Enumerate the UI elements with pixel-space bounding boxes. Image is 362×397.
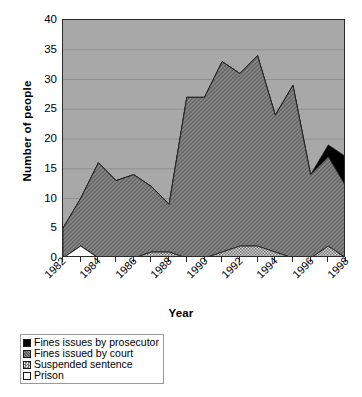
legend-swatch-white (23, 372, 31, 380)
legend-label: Prison (34, 370, 64, 381)
legend-swatch-light-gray (23, 361, 31, 369)
legend-swatch-gray (23, 350, 31, 358)
x-axis-tick-labels: 198219841986198819901992199419961998 (0, 262, 362, 308)
y-tick-label-30: 30 (31, 74, 57, 84)
chart-plot-area (62, 19, 345, 257)
y-tick-label-20: 20 (31, 133, 57, 143)
y-tick-label-5: 5 (31, 222, 57, 232)
y-tick-label-15: 15 (31, 163, 57, 173)
y-tick-label-35: 35 (31, 44, 57, 54)
legend-item: Prison (23, 370, 159, 381)
legend-swatch-black (23, 339, 31, 347)
y-tick-label-10: 10 (31, 193, 57, 203)
area-series-fines-issued-by-court (63, 56, 345, 257)
stacked-area-chart (63, 20, 345, 257)
y-tick-label-25: 25 (31, 103, 57, 113)
chart-legend: Fines issues by prosecutorFines issued b… (20, 334, 164, 384)
y-tick-label-40: 40 (31, 14, 57, 24)
series-areas (63, 56, 345, 257)
x-axis-title: Year (0, 307, 362, 319)
